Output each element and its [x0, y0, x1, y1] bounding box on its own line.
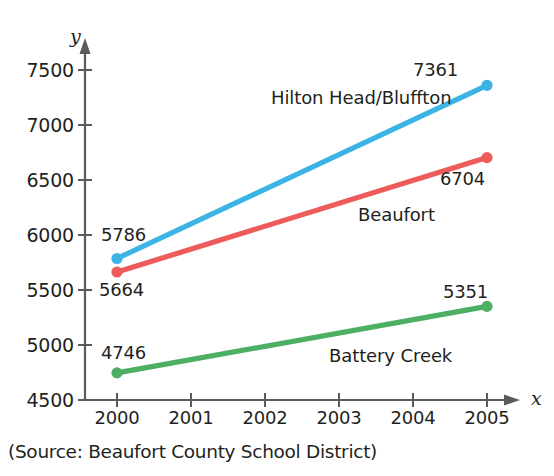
x-tick-label-2000: 2000 — [79, 409, 155, 427]
source-note: (Source: Beaufort County School District… — [8, 443, 377, 462]
x-axis-label: x — [531, 389, 542, 408]
y-tick-label-5500: 5500 — [8, 281, 74, 300]
y-tick-label-6500: 6500 — [8, 171, 74, 190]
x-tick-label-2004: 2004 — [375, 409, 451, 427]
y-axis-arrowhead — [80, 38, 91, 54]
x-axis-arrowhead — [504, 395, 520, 406]
x-tick-label-2003: 2003 — [301, 409, 377, 427]
chart-plot-area — [0, 0, 554, 476]
data-point-battery-2000 — [111, 367, 122, 378]
series-label-beaufort: Beaufort — [358, 206, 435, 224]
value-label-5664: 5664 — [99, 281, 144, 299]
y-tick-label-7500: 7500 — [8, 61, 74, 80]
data-point-battery-2005 — [481, 301, 492, 312]
data-point-beaufort-2005 — [481, 152, 492, 163]
series-label-hilton-head-bluffton: Hilton Head/Bluffton — [271, 89, 451, 107]
value-label-7361: 7361 — [413, 61, 458, 79]
value-label-5351: 5351 — [443, 283, 488, 301]
y-tick-label-4500: 4500 — [8, 391, 74, 410]
data-point-beaufort-2000 — [111, 266, 122, 277]
x-tick-label-2005: 2005 — [449, 409, 525, 427]
value-label-5786: 5786 — [101, 226, 146, 244]
series-battery-creek — [111, 301, 492, 379]
series-label-battery-creek: Battery Creek — [329, 347, 452, 365]
x-tick-label-2002: 2002 — [227, 409, 303, 427]
line-chart: y x 7500 7000 6500 6000 5500 5000 4500 2… — [0, 0, 554, 476]
y-axis-label: y — [70, 27, 81, 46]
value-label-6704: 6704 — [440, 170, 485, 188]
y-tick-label-7000: 7000 — [8, 116, 74, 135]
data-point-hilton-2005 — [481, 80, 492, 91]
y-tick-label-6000: 6000 — [8, 226, 74, 245]
y-tick-label-5000: 5000 — [8, 336, 74, 355]
value-label-4746: 4746 — [101, 344, 146, 362]
data-point-hilton-2000 — [111, 253, 122, 264]
x-tick-label-2001: 2001 — [153, 409, 229, 427]
